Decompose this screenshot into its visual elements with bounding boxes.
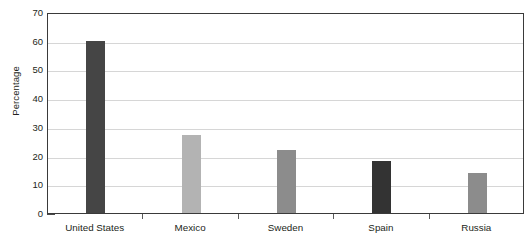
x-axis-tick-label: Russia [429, 221, 524, 235]
x-axis-tick-label: United States [47, 221, 142, 235]
x-axis-tick-label: Sweden [238, 221, 333, 235]
x-axis-tick-label: Mexico [142, 221, 237, 235]
bar-chart: Percentage 010203040506070 United States… [0, 0, 531, 244]
x-axis-tick-labels: United StatesMexicoSwedenSpainRussia [0, 0, 531, 244]
x-axis-tick-label: Spain [333, 221, 428, 235]
